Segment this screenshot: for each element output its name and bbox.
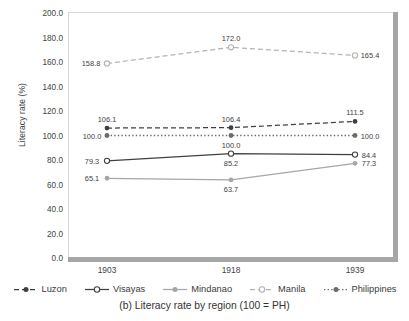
data-label: 100.0 [361,131,380,140]
data-label: 63.7 [224,184,238,193]
legend-marker-icon [249,284,275,295]
legend-marker-icon [162,284,188,295]
data-point [353,119,358,124]
data-label: 158.8 [82,59,101,68]
x-axis-tick-label: 1903 [98,265,117,275]
data-label: 165.4 [361,51,380,60]
data-point [105,176,110,181]
legend-marker-icon [323,284,349,295]
series-manila [104,45,357,66]
chart-legend: LuzonVisayasMindanaoManilaPhilippines [0,278,409,300]
data-label: 111.5 [346,108,363,117]
data-point [104,158,109,163]
data-label: 100.0 [222,140,241,149]
legend-item-mindanao[interactable]: Mindanao [162,284,232,295]
legend-item-philippines[interactable]: Philippines [323,284,397,295]
legend-label: Visayas [113,284,145,294]
legend-marker-icon [84,284,110,295]
data-point [229,178,234,183]
data-label: 106.1 [98,115,117,124]
legend-item-visayas[interactable]: Visayas [84,284,145,295]
legend-item-luzon[interactable]: Luzon [13,284,67,295]
data-label: 85.2 [224,158,238,167]
legend-item-manila[interactable]: Manila [249,284,305,295]
data-label: 172.0 [222,34,241,43]
data-point [229,133,234,138]
data-point [352,152,357,157]
data-label: 84.4 [362,150,376,159]
data-label: 79.3 [85,156,99,165]
figure: Literacy rate (%) 200.0180.0160.0140.012… [0,0,409,321]
data-point [105,126,110,131]
legend-label: Manila [278,284,305,294]
legend-label: Philippines [352,284,397,294]
data-label: 77.3 [362,159,376,168]
legend-marker-icon [13,284,39,295]
data-point [228,151,233,156]
legend-label: Mindanao [191,284,232,294]
legend-label: Luzon [42,284,67,294]
data-point [229,125,234,130]
x-axis-tick-label: 1918 [222,265,241,275]
data-point [104,61,109,66]
x-axis-tick-label: 1939 [346,265,365,275]
chart-plot-region: Literacy rate (%) 200.0180.0160.0140.012… [0,0,409,270]
data-label: 100.0 [83,131,102,140]
series-lines [0,0,409,270]
data-point [105,133,110,138]
series-philippines [105,133,358,138]
data-label: 65.1 [85,174,99,183]
data-point [353,133,358,138]
data-point [353,161,358,166]
data-point [352,53,357,58]
figure-caption: (b) Literacy rate by region (100 = PH) [0,300,409,311]
data-point [228,45,233,50]
data-label: 106.4 [222,114,241,123]
